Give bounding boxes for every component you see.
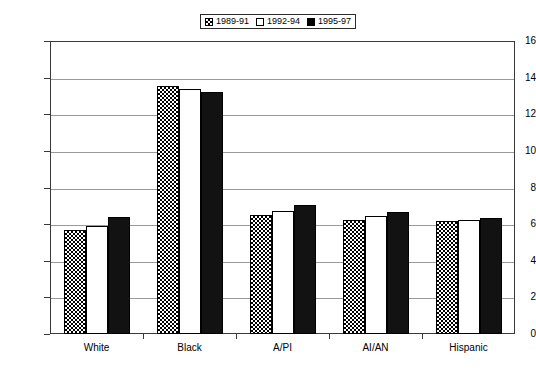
bar-black-1995-97 (201, 92, 223, 334)
bar-a-pi-1992-94 (272, 211, 294, 334)
legend-entry-1992-94: 1992-94 (256, 17, 300, 26)
bar-hispanic-1995-97 (480, 218, 502, 334)
legend-entry-1995-97: 1995-97 (307, 17, 351, 26)
x-axis-category-label: A/PI (273, 342, 292, 353)
bar-white-1989-91 (64, 230, 86, 334)
legend-label-1995-97: 1995-97 (318, 17, 351, 26)
x-axis-tick-mark (329, 334, 330, 339)
legend-entry-1989-91: 1989-91 (205, 17, 249, 26)
x-axis-tick-mark (143, 334, 144, 339)
bar-black-1992-94 (179, 89, 201, 334)
bar-white-1992-94 (86, 226, 108, 334)
x-axis-tick-mark (236, 334, 237, 339)
bar-white-1995-97 (108, 217, 130, 334)
legend-label-1992-94: 1992-94 (267, 17, 300, 26)
x-axis-category-label: Hispanic (449, 342, 487, 353)
chart-legend: 1989-91 1992-94 1995-97 (200, 14, 356, 29)
bar-black-1989-91 (157, 86, 179, 334)
x-axis-category-label: Black (177, 342, 201, 353)
x-axis-category-label: AI/AN (362, 342, 388, 353)
bars-group (50, 41, 515, 334)
legend-swatch-checkered-icon (205, 18, 213, 26)
legend-label-1989-91: 1989-91 (216, 17, 249, 26)
legend-swatch-black-icon (307, 18, 315, 26)
bar-a-pi-1995-97 (294, 205, 316, 334)
y-axis-tick-mark (44, 334, 50, 335)
legend-swatch-white-icon (256, 18, 264, 26)
bar-chart-figure: 1989-91 1992-94 1995-97 0246810121416 Wh… (0, 0, 536, 372)
x-axis-category-label: White (84, 342, 110, 353)
bar-ai-an-1995-97 (387, 212, 409, 334)
bar-ai-an-1992-94 (365, 216, 387, 334)
x-axis-tick-mark (422, 334, 423, 339)
bar-a-pi-1989-91 (250, 215, 272, 334)
bar-hispanic-1992-94 (458, 220, 480, 334)
bar-ai-an-1989-91 (343, 220, 365, 334)
bar-hispanic-1989-91 (436, 221, 458, 334)
